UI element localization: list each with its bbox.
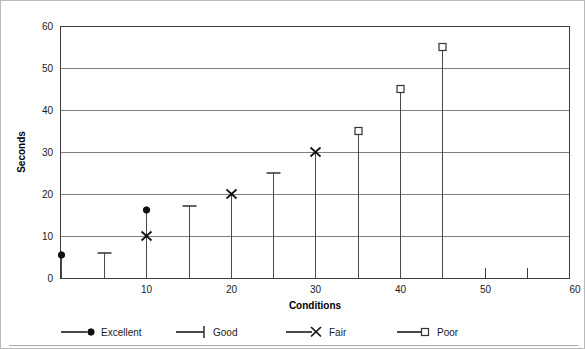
legend-item-fair[interactable]: Fair — [286, 327, 347, 338]
x-tick-label: 20 — [226, 284, 238, 295]
legend-marker-x-cross-icon — [311, 327, 321, 337]
x-tick-label: 60 — [569, 284, 581, 295]
y-axis-title: Seconds — [16, 131, 27, 173]
chart-plot-area: 60 50 40 30 20 10 0 Seconds — [1, 1, 585, 349]
x-tick-label: 10 — [141, 284, 153, 295]
legend-item-poor[interactable]: Poor — [397, 327, 459, 338]
y-axis-tick-labels: 60 50 40 30 20 10 0 — [42, 21, 54, 284]
legend-label: Poor — [437, 327, 459, 338]
x-tick-label: 30 — [310, 284, 322, 295]
y-tick-label: 50 — [42, 63, 54, 74]
x-tick-label: 50 — [480, 284, 492, 295]
x-axis-title: Conditions — [289, 300, 342, 311]
legend-item-good[interactable]: Good — [176, 326, 237, 338]
legend-label: Good — [213, 327, 237, 338]
chart-legend: Excellent Good Fair Poor — [61, 326, 459, 338]
legend-marker-filled-circle-icon — [88, 329, 94, 335]
y-tick-label: 40 — [42, 105, 54, 116]
legend-marker-open-square-icon — [422, 329, 429, 336]
legend-label: Fair — [329, 327, 347, 338]
chart-figure: 60 50 40 30 20 10 0 Seconds — [0, 0, 585, 349]
legend-label: Excellent — [101, 327, 142, 338]
x-tick-label: 40 — [395, 284, 407, 295]
y-tick-label: 20 — [42, 189, 54, 200]
y-tick-label: 60 — [42, 21, 54, 32]
legend-item-excellent[interactable]: Excellent — [61, 327, 142, 338]
y-tick-label: 0 — [47, 273, 53, 284]
x-axis-tick-labels: 10 20 30 40 50 60 — [141, 284, 581, 295]
y-tick-label: 10 — [42, 231, 54, 242]
y-tick-label: 30 — [42, 147, 54, 158]
